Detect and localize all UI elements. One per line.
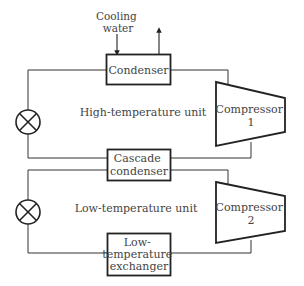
cascade-condenser[interactable]: Cascade condenser [108, 150, 171, 181]
low-temperature-unit-label: Low-temperature unit [75, 202, 198, 215]
compressor-1[interactable]: Compressor 1 [216, 82, 287, 146]
expansion-valve-high[interactable] [16, 110, 40, 134]
high-temperature-unit-label: High-temperature unit [80, 106, 207, 119]
low-temperature-exchanger[interactable]: Low- temperature exchanger [102, 234, 176, 276]
condenser-label: Condenser [108, 64, 169, 77]
expansion-valve-low[interactable] [16, 200, 40, 224]
condenser[interactable]: Condenser [107, 55, 171, 85]
cooling-water-label: Cooling water [96, 10, 140, 34]
cascade-refrigeration-diagram: Cooling water Condenser High-temperature… [0, 0, 304, 286]
cascade-condenser-label: Cascade condenser [110, 152, 169, 178]
compressor-2[interactable]: Compressor 2 [216, 182, 287, 243]
